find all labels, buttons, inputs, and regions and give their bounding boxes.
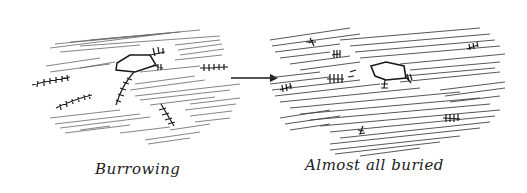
sketch-canvas	[0, 0, 527, 193]
shell-outline	[371, 62, 406, 80]
left-sediment-hatching	[46, 30, 240, 144]
left-burrows	[32, 47, 228, 126]
shell-outline	[116, 55, 156, 72]
caption-burrowing: Burrowing	[95, 160, 180, 178]
caption-almost-all-buried: Almost all buried	[305, 156, 444, 174]
